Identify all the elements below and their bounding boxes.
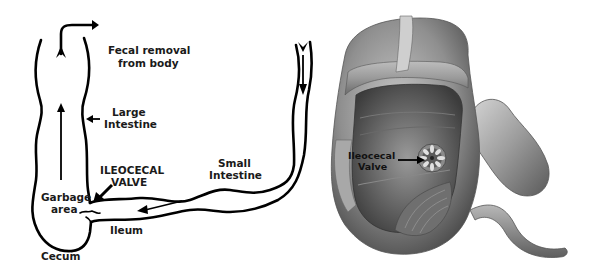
large-intestine-pointer-head [86,115,93,123]
label-cecum: Cecum [41,250,81,262]
downward-flow-arrow-head [299,84,307,95]
appendix [470,205,567,258]
label-large-intestine: Large Intestine [104,106,157,130]
label-ileocecal-valve: ILEOCECAL VALVE [100,164,168,188]
ileocecal-valve-rosette [418,144,446,172]
upward-flow-arrow-head [57,103,65,112]
ileum-tube [469,99,549,196]
label-ileum: Ileum [110,224,143,236]
large-intestine-left-wall [32,40,72,251]
anatomical-illustration: Ileocecal Valve [331,16,567,258]
leftward-flow-arrow-line [145,201,182,210]
label-small-intestine: Small Intestine [209,157,262,181]
cecum-bottom-wall [72,222,91,251]
exit-arrow-head [92,20,99,30]
ileocecal-slit [80,211,100,213]
leftward-flow-arrow-head [137,205,148,214]
exit-arrow-tail [56,46,66,58]
diagram-canvas: Fecal removal from body Large Intestine … [0,0,594,275]
downward-flow-arrow-tail [298,42,308,52]
label-fecal-removal: Fecal removal from body [108,44,194,69]
schematic-diagram: Fecal removal from body Large Intestine … [32,20,311,262]
